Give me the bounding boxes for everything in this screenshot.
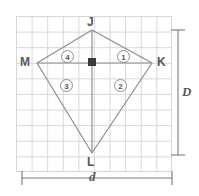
vertex-label-L: L: [87, 156, 94, 168]
measure-bracket-d: [22, 171, 172, 185]
angle-number-3: 3: [60, 79, 73, 92]
kite-outline: [37, 30, 152, 153]
vertex-label-J: J: [87, 16, 94, 28]
diagram-canvas: J K L M D d 1 2 3 4: [0, 0, 199, 196]
measure-label-D: D: [182, 85, 191, 98]
angle-number-4: 4: [61, 50, 74, 63]
right-angle-marker: [88, 58, 96, 66]
kite-figure: [0, 0, 199, 196]
vertex-label-M: M: [20, 56, 30, 68]
angle-number-1: 1: [117, 50, 130, 63]
angle-number-2: 2: [114, 79, 127, 92]
measure-label-d: d: [89, 170, 96, 183]
vertex-label-K: K: [157, 56, 166, 68]
